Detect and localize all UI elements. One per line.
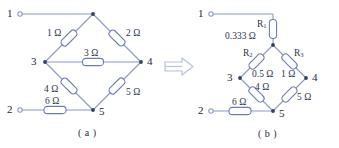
resistor-value-4ohm-circuit-b: 4 Ω [255, 83, 269, 93]
caption-circuit-a: ( a ) [78, 128, 97, 138]
resistor-name-r1-subscript: 1 [263, 22, 266, 29]
junction-node-5-circuit-b [271, 109, 275, 113]
resistor-value-4ohm-circuit-a: 4 Ω [44, 85, 58, 95]
resistor-4ohm-circuit-a [60, 77, 79, 96]
resistor-value-2ohm-circuit-a: 2 Ω [126, 29, 140, 39]
resistor-5ohm-circuit-a [108, 77, 127, 96]
resistor-value-6ohm-circuit-a: 6 Ω [45, 97, 59, 107]
resistor-3ohm-circuit-a [83, 58, 104, 65]
resistor-value-3ohm-circuit-a: 3 Ω [84, 49, 98, 59]
terminal-label-2-circuit-b: 2 [198, 105, 204, 116]
resistor-name-r3-subscript: 3 [300, 51, 303, 58]
resistor-name-r1-circuit-b: R1 [257, 20, 267, 30]
resistor-6ohm-circuit-b [229, 107, 251, 114]
node-label-5-circuit-b: 5 [279, 108, 285, 119]
node-label-3-circuit-b: 3 [227, 72, 233, 83]
circuit-a-wires [22, 14, 141, 110]
resistor-name-r3-circuit-b: R3 [294, 49, 304, 59]
junction-node-3-circuit-b [238, 76, 242, 80]
junction-top-circuit-a [91, 12, 95, 16]
resistor-name-r2-subscript: 2 [249, 51, 252, 58]
node-label-3-circuit-a: 3 [31, 56, 37, 67]
resistor-value-r2-circuit-b: 0.5 Ω [252, 70, 273, 80]
resistor-value-r1-circuit-b: 0.333 Ω [225, 32, 256, 42]
terminal-1-circuit-a [18, 12, 22, 16]
node-label-5-circuit-a: 5 [99, 106, 105, 117]
resistor-value-r3-circuit-b: 1 Ω [281, 70, 295, 80]
caption-circuit-b: ( b ) [258, 129, 277, 139]
resistor-value-6ohm-circuit-b: 6 Ω [232, 98, 246, 108]
double-right-arrow-icon [165, 58, 193, 75]
resistor-value-1ohm-circuit-a: 1 Ω [47, 29, 61, 39]
junction-node-4-circuit-a [139, 60, 143, 64]
terminal-label-1-circuit-a: 1 [7, 8, 13, 19]
junction-node-4-circuit-b [304, 76, 308, 80]
resistor-value-5ohm-circuit-b: 5 Ω [297, 93, 311, 103]
resistor-name-r2-circuit-b: R2 [243, 49, 253, 59]
circuit-figure: .wire { stroke:#8c9ac6; stroke-width:1.1… [0, 0, 339, 148]
node-label-4-circuit-b: 4 [312, 72, 318, 83]
resistor-5ohm-circuit-b [281, 86, 299, 104]
terminal-1-circuit-b [209, 12, 213, 16]
resistor-value-5ohm-circuit-a: 5 Ω [126, 88, 140, 98]
terminal-2-circuit-a [18, 108, 22, 112]
terminal-label-1-circuit-b: 1 [198, 8, 204, 19]
resistor-r1-circuit-b [269, 20, 276, 39]
junction-node-5-circuit-a [91, 108, 95, 112]
terminal-label-2-circuit-a: 2 [7, 104, 13, 115]
resistor-2ohm-circuit-a [108, 29, 127, 48]
junction-node-3-circuit-a [43, 60, 47, 64]
terminal-2-circuit-b [209, 109, 213, 113]
resistor-1ohm-circuit-a [60, 29, 79, 48]
junction-apex-circuit-b [271, 43, 275, 47]
resistor-6ohm-circuit-a [44, 106, 66, 113]
node-label-4-circuit-a: 4 [147, 56, 153, 67]
